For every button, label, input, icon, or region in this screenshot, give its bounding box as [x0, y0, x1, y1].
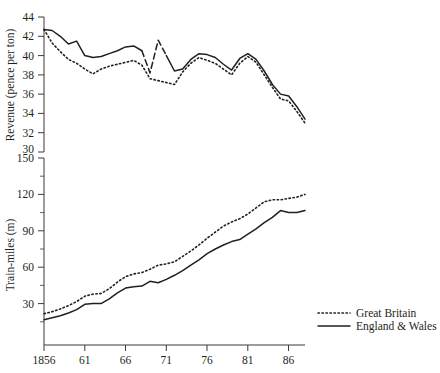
- trainmiles-ytick-90: 90: [23, 225, 35, 237]
- legend: Great Britain England & Wales: [318, 307, 437, 333]
- trainmiles-ytick-30: 30: [23, 298, 35, 310]
- xtick-1866: 66: [120, 354, 132, 366]
- revenue-ytick-42: 42: [23, 30, 35, 42]
- chart-figure: 44 42 40 38 36 34 32 30 Revenue (pence p…: [0, 0, 440, 373]
- revenue-panel: 44 42 40 38 36 34 32 30 Revenue (pence p…: [4, 11, 305, 155]
- revenue-series-great-britain: [44, 30, 305, 124]
- xtick-1881: 81: [242, 354, 254, 366]
- revenue-axis-title: Revenue (pence per ton): [4, 28, 17, 141]
- x-axis-ticks: [44, 345, 289, 351]
- trainmiles-ytick-120: 120: [17, 188, 35, 200]
- revenue-ytick-44: 44: [23, 11, 35, 23]
- xtick-1861: 61: [79, 354, 91, 366]
- revenue-ytick-32: 32: [23, 127, 35, 139]
- trainmiles-series-great-britain: [44, 194, 305, 313]
- revenue-series-england-wales-dashed-segment: [142, 40, 166, 73]
- xtick-1856: 1856: [33, 354, 56, 366]
- xtick-1886: 86: [283, 354, 295, 366]
- revenue-series-england-wales: [44, 30, 142, 58]
- trainmiles-y-ticks: [38, 158, 44, 322]
- train-miles-panel: 150 120 90 60 30 Train-miles (m) 1856 61…: [4, 152, 305, 366]
- revenue-series-england-wales-tail: [166, 54, 305, 120]
- revenue-ytick-36: 36: [23, 88, 35, 100]
- trainmiles-axis-title: Train-miles (m): [4, 218, 17, 291]
- revenue-ytick-40: 40: [23, 50, 35, 62]
- dual-panel-line-chart: 44 42 40 38 36 34 32 30 Revenue (pence p…: [0, 0, 440, 373]
- trainmiles-ytick-150: 150: [17, 152, 35, 164]
- xtick-1876: 76: [201, 354, 213, 366]
- revenue-ytick-34: 34: [23, 107, 35, 119]
- revenue-ytick-38: 38: [23, 69, 35, 81]
- legend-label-great-britain: Great Britain: [356, 307, 417, 319]
- trainmiles-series-england-wales: [44, 211, 305, 320]
- xtick-1871: 71: [161, 354, 173, 366]
- trainmiles-ytick-60: 60: [23, 261, 35, 273]
- legend-label-england-wales: England & Wales: [356, 320, 437, 333]
- revenue-y-ticks: [38, 17, 44, 152]
